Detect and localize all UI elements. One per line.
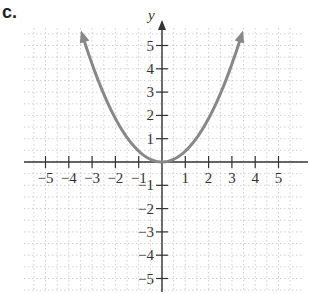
y-tick-label: −1 <box>138 177 154 193</box>
y-tick-label: −5 <box>138 271 154 287</box>
y-tick-label: −3 <box>138 224 154 240</box>
coordinate-plane: y−5−4−3−2−112345−5−4−3−2−112345 <box>0 0 310 294</box>
x-tick-label: 4 <box>251 170 259 186</box>
x-tick-label: 2 <box>205 170 213 186</box>
x-tick-label: 3 <box>228 170 236 186</box>
x-tick-label: 5 <box>275 170 283 186</box>
y-tick-label: −4 <box>138 247 154 263</box>
y-axis-arrow-icon <box>158 20 166 30</box>
y-tick-label: 4 <box>147 61 155 77</box>
x-tick-label: −3 <box>84 170 100 186</box>
x-tick-label: −4 <box>61 170 77 186</box>
y-tick-label: 2 <box>147 107 155 123</box>
curve-arrow-icon <box>235 30 245 43</box>
x-tick-label: 1 <box>182 170 190 186</box>
x-tick-label: −5 <box>38 170 54 186</box>
y-axis-label: y <box>146 7 155 23</box>
y-tick-label: 3 <box>147 84 155 100</box>
y-tick-label: −2 <box>138 201 154 217</box>
x-tick-label: −2 <box>107 170 123 186</box>
curve-arrow-icon <box>80 30 90 43</box>
y-tick-label: 1 <box>147 131 155 147</box>
y-tick-label: 5 <box>147 38 155 54</box>
